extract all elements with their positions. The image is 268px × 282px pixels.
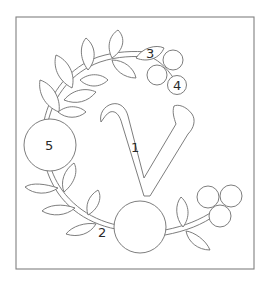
berry [220,185,242,207]
pattern-drawing: 1 2 3 4 5 [0,0,268,282]
label-5: 5 [45,138,53,153]
label-4: 4 [173,78,181,93]
berry [197,186,219,208]
berry [147,65,167,85]
berry [163,50,183,70]
label-2: 2 [98,225,106,240]
label-3: 3 [146,46,154,61]
flower-bottom [114,201,166,253]
berry [209,205,231,227]
pattern-canvas: 1 2 3 4 5 [0,0,268,282]
label-1: 1 [131,140,139,155]
